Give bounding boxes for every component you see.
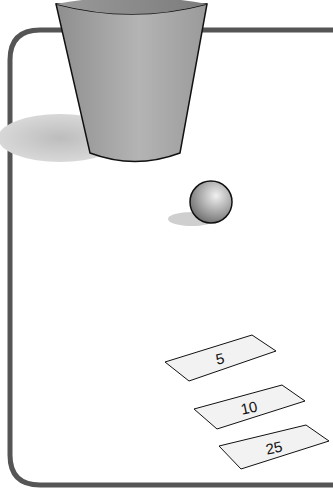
target-25-label: 25 bbox=[264, 437, 284, 457]
target-5: 5 bbox=[165, 335, 276, 381]
ball bbox=[190, 181, 232, 223]
target-10-label: 10 bbox=[239, 397, 259, 417]
target-10: 10 bbox=[194, 385, 305, 429]
game-board-diagram: 5 10 25 bbox=[0, 0, 333, 493]
target-25: 25 bbox=[219, 425, 329, 469]
